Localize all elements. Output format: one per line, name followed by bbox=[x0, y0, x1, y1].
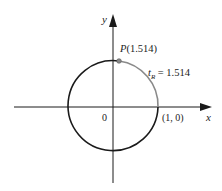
x-axis-arrow-icon bbox=[200, 103, 212, 111]
x-axis-label: x bbox=[206, 112, 211, 123]
y-axis-arrow-icon bbox=[109, 14, 117, 27]
intercept-label: (1, 0) bbox=[162, 113, 184, 123]
point-p-value: (1.514) bbox=[126, 43, 157, 54]
arc-value: = 1.514 bbox=[155, 67, 190, 78]
point-p-label: P(1.514) bbox=[120, 44, 157, 55]
y-axis-label: y bbox=[102, 14, 107, 25]
origin-label: 0 bbox=[102, 113, 107, 123]
unit-circle-diagram bbox=[0, 0, 222, 191]
point-p bbox=[117, 59, 122, 64]
arc-length-label: tR = 1.514 bbox=[148, 68, 190, 81]
